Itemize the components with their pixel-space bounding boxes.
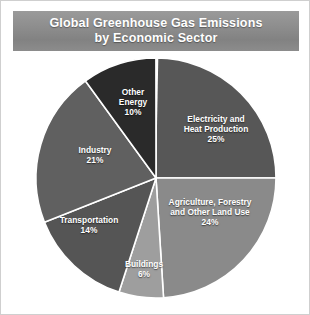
chart-figure: Global Greenhouse Gas Emissions by Econo…: [0, 0, 310, 315]
pie-chart-svg: [1, 1, 310, 315]
pie-slice-agriculture: [156, 178, 276, 298]
pie-slice-electricity: [156, 58, 276, 178]
pie-slice-group: [36, 58, 276, 298]
pie-chart: Electricity and Heat Production 25% Agri…: [1, 1, 310, 315]
